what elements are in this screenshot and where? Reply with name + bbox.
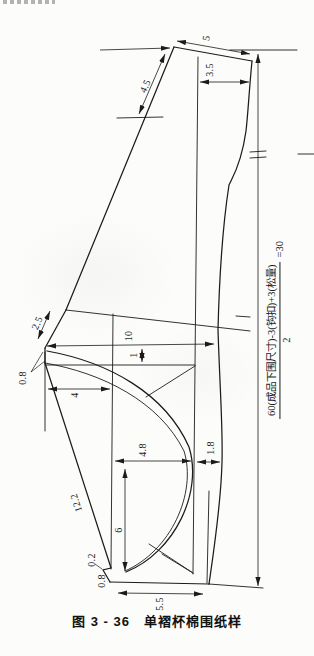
formula-numerator: 60(成品下围尺寸)-3(钩扣)+3(松量) bbox=[266, 262, 280, 419]
dim-label-hook-width: 3.5 bbox=[204, 63, 215, 76]
dim-label-band-length: 10 bbox=[123, 331, 134, 342]
dim-label-notch-bottom: 0.8 bbox=[96, 574, 107, 587]
formula-denominator: 2 bbox=[281, 338, 294, 343]
dim-label-cup-bottom-width: 4.8 bbox=[137, 443, 148, 456]
formula-fraction: 60(成品下围尺寸)-3(钩扣)+3(松量) 2 bbox=[266, 262, 293, 419]
formula-result: =30 bbox=[275, 241, 286, 257]
sizing-formula: 60(成品下围尺寸)-3(钩扣)+3(松量) 2 =30 bbox=[266, 180, 293, 480]
dim-label-side-width: 1.8 bbox=[205, 441, 216, 454]
dim-label-cup-top-width: 4 bbox=[69, 392, 80, 397]
figure-canvas: 5 3.5 4.5 2.5 0.8 10 1 4 4.8 1.8 12.2 6 … bbox=[0, 0, 314, 656]
dimension-lines bbox=[38, 41, 258, 594]
dim-label-notch-small: 0.2 bbox=[86, 553, 97, 566]
dim-label-band-drop: 1 bbox=[128, 352, 139, 357]
leader-lines bbox=[31, 352, 102, 569]
dim-label-cup-height: 6 bbox=[113, 527, 124, 532]
figure-caption: 图 3 - 36 单褶杯棉围纸样 bbox=[0, 611, 314, 630]
dim-label-gap-top: 0.8 bbox=[17, 371, 28, 384]
dim-label-bottom-width: 5.5 bbox=[154, 597, 165, 610]
